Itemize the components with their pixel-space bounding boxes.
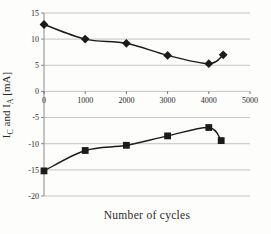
x-tick-label: 0	[42, 96, 46, 105]
data-point-square	[218, 137, 225, 144]
data-point-diamond	[204, 59, 213, 68]
x-tick-label: 2000	[118, 96, 134, 105]
y-tick-label: -15	[28, 166, 39, 175]
x-axis-title: Number of cycles	[44, 209, 250, 221]
data-point-diamond	[40, 20, 49, 29]
chart-svg: 151050-5-10-15-20010002000300040005000IC…	[0, 0, 271, 234]
x-tick-label: 5000	[242, 96, 258, 105]
data-point-diamond	[163, 51, 172, 60]
y-tick-label: 5	[35, 61, 39, 70]
y-tick-label: -20	[28, 192, 39, 201]
data-point-diamond	[81, 35, 90, 44]
chart-figure: 151050-5-10-15-20010002000300040005000IC…	[0, 0, 271, 234]
series-line-I_C	[44, 25, 223, 64]
y-tick-label: -5	[32, 113, 39, 122]
y-tick-label: 10	[31, 35, 39, 44]
data-point-square	[82, 147, 89, 154]
data-point-square	[123, 142, 130, 149]
x-tick-label: 4000	[201, 96, 217, 105]
x-tick-label: 3000	[160, 96, 176, 105]
y-tick-label: 0	[35, 87, 39, 96]
data-point-square	[164, 133, 171, 140]
data-point-diamond	[122, 39, 131, 48]
series-line-I_A	[44, 127, 221, 170]
y-tick-label: 15	[31, 9, 39, 18]
y-axis-title: IC​ and IA​ [mA]	[0, 72, 15, 138]
x-tick-label: 1000	[77, 96, 93, 105]
y-tick-label: -10	[28, 140, 39, 149]
data-point-square	[205, 124, 212, 131]
data-point-square	[41, 168, 48, 175]
